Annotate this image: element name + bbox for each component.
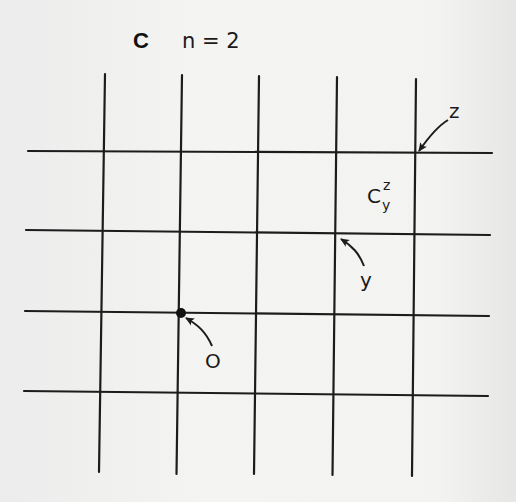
- z-arrow: [419, 120, 448, 151]
- origin-arrow: [186, 318, 212, 346]
- panel-label: C: [133, 28, 149, 53]
- z-label: z: [449, 99, 460, 123]
- cell-subscript: y: [382, 197, 390, 213]
- vertical-grid-line: [412, 79, 416, 476]
- cell-symbol: C: [367, 184, 381, 208]
- lattice-diagram: C n = 2 O y z C z y: [0, 0, 516, 502]
- horizontal-grid-line: [28, 151, 492, 153]
- y-label: y: [360, 268, 372, 292]
- vertical-grid-line: [177, 75, 183, 474]
- vertical-grid-line: [99, 74, 105, 472]
- cell-superscript: z: [383, 177, 390, 193]
- caption: n = 2: [182, 29, 240, 53]
- y-arrow: [341, 239, 364, 266]
- origin-point: [176, 308, 186, 318]
- origin-label: O: [205, 349, 221, 373]
- grid: [24, 74, 492, 476]
- vertical-grid-line: [254, 76, 259, 474]
- vertical-grid-line: [333, 77, 338, 475]
